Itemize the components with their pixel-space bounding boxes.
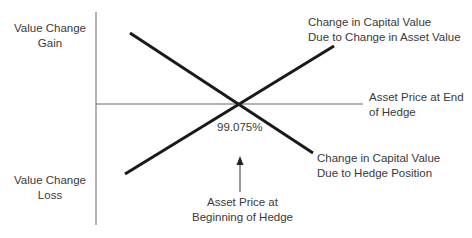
- y-loss-line2: Loss: [10, 188, 90, 203]
- arrow-label: Asset Price at Beginning of Hedge: [190, 195, 295, 225]
- y-loss-line1: Value Change: [10, 173, 90, 188]
- y-gain-line1: Value Change: [10, 21, 90, 36]
- asset-value-line: [125, 46, 334, 174]
- intersection-value: 99.075%: [217, 120, 262, 135]
- x-axis-label1: Asset Price at End: [369, 90, 464, 105]
- arrow-head-icon: [237, 156, 244, 165]
- hedge-position-line: [130, 33, 313, 153]
- hedge-line-label2: Due to Hedge Position: [317, 166, 440, 181]
- asset-line-label2: Due to Change in Asset Value: [308, 30, 461, 45]
- y-axis-loss-label: Value Change Loss: [10, 173, 90, 203]
- arrow-label2: Beginning of Hedge: [190, 210, 295, 225]
- arrow-label1: Asset Price at: [190, 195, 295, 210]
- hedge-position-line-label: Change in Capital Value Due to Hedge Pos…: [317, 151, 440, 181]
- asset-value-line-label: Change in Capital Value Due to Change in…: [308, 15, 461, 45]
- hedge-line-label1: Change in Capital Value: [317, 151, 440, 166]
- x-axis-label: Asset Price at End of Hedge: [369, 90, 464, 120]
- y-gain-line2: Gain: [10, 36, 90, 51]
- y-axis-gain-label: Value Change Gain: [10, 21, 90, 51]
- x-axis-label2: of Hedge: [369, 105, 464, 120]
- asset-line-label1: Change in Capital Value: [308, 15, 461, 30]
